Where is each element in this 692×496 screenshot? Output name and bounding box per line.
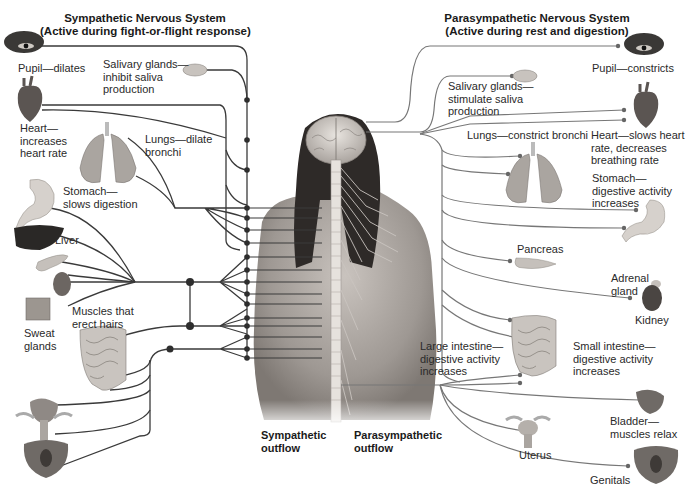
uterus-icon <box>506 417 550 448</box>
parasympathetic-title-line1: Parasympathetic Nervous System <box>432 12 642 25</box>
label-heart-sympathetic: Heart— increases heart rate <box>20 122 67 160</box>
label-sweat-glands: Sweat glands <box>24 327 56 352</box>
label-salivary-sympathetic: Salivary glands— inhibit saliva producti… <box>103 58 189 96</box>
label-sympathetic-outflow: Sympathetic outflow <box>261 429 326 455</box>
parasympathetic-title: Parasympathetic Nervous System (Active d… <box>432 12 642 38</box>
pancreas-icon-right <box>515 258 556 269</box>
sympathetic-title-line1: Sympathetic Nervous System <box>40 12 250 25</box>
genitals-icon-left <box>24 440 68 478</box>
heart-icon-left <box>18 76 43 122</box>
label-pupil-dilates: Pupil—dilates <box>18 62 85 75</box>
intestines-icon-left <box>80 326 126 390</box>
stomach-icon-left <box>16 179 54 232</box>
label-parasympathetic-outflow: Parasympathetic outflow <box>354 429 442 455</box>
label-pupil-constricts: Pupil—constricts <box>592 62 674 75</box>
eye-icon-left <box>4 31 44 53</box>
label-stomach-parasympathetic: Stomach— digestive activity increases <box>592 172 672 210</box>
parasympathetic-title-line2: (Active during rest and digestion) <box>432 25 642 38</box>
reproductive-icon-left <box>16 398 72 440</box>
label-lungs-parasympathetic: Lungs—constrict bronchi <box>467 129 588 142</box>
sweat-gland-icon <box>26 298 50 320</box>
label-bladder: Bladder— muscles relax <box>610 415 677 440</box>
lungs-icon-left <box>80 122 136 183</box>
label-salivary-parasympathetic: Salivary glands— stimulate saliva produc… <box>448 80 534 118</box>
bladder-icon <box>636 390 664 414</box>
lungs-icon-right <box>506 142 562 203</box>
label-large-intestine: Large intestine— digestive activity incr… <box>420 340 503 378</box>
label-pancreas: Pancreas <box>517 243 563 256</box>
label-lungs-sympathetic: Lungs—dilate bronchi <box>145 133 212 158</box>
label-adrenal-gland: Adrenal gland <box>611 272 649 297</box>
label-muscles-erect-hairs: Muscles that erect hairs <box>72 305 134 330</box>
pancreas-icon-left <box>36 255 68 271</box>
heart-icon-right <box>634 82 659 128</box>
label-stomach-sympathetic: Stomach— slows digestion <box>63 185 138 210</box>
genitals-icon-right <box>634 446 678 484</box>
label-heart-parasympathetic: Heart—slows heart rate, decreases breath… <box>591 129 685 167</box>
label-uterus: Uterus <box>519 449 551 462</box>
kidney-icon-left <box>53 272 71 296</box>
label-liver: Liver <box>55 234 79 247</box>
sympathetic-title-line2: (Active during fight-or-flight response) <box>40 25 250 38</box>
label-small-intestine: Small intestine— digestive activity incr… <box>573 340 656 378</box>
intestines-icon-right <box>512 315 556 376</box>
sympathetic-title: Sympathetic Nervous System (Active durin… <box>40 12 250 38</box>
label-genitals: Genitals <box>590 474 630 487</box>
label-kidney: Kidney <box>635 314 669 327</box>
